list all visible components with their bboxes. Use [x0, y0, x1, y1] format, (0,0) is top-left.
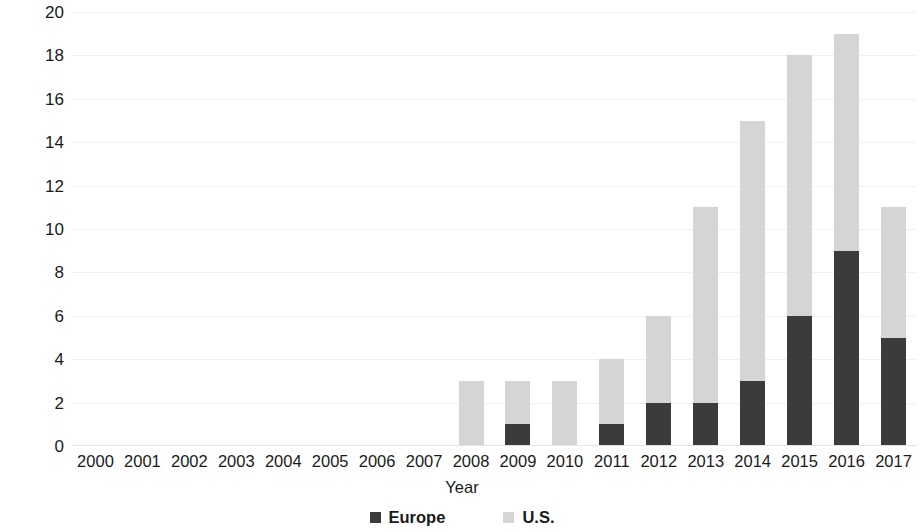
x-axis-line — [72, 445, 917, 446]
x-axis-tick-label: 2002 — [166, 450, 213, 472]
x-axis-tick-label: 2011 — [588, 450, 635, 472]
bar-group[interactable] — [599, 359, 624, 446]
x-axis-tick-label: 2006 — [354, 450, 401, 472]
x-axis-tick-label: 2008 — [448, 450, 495, 472]
bar-segment-us[interactable] — [552, 381, 577, 446]
x-axis-tick-label: 2003 — [213, 450, 260, 472]
x-axis-tick-label: 2015 — [776, 450, 823, 472]
bar-segment-us[interactable] — [740, 121, 765, 381]
gridline — [72, 12, 917, 13]
bar-group[interactable] — [881, 207, 906, 446]
y-axis-tick-labels: 20181614121086420 — [16, 0, 64, 460]
x-axis-title: Year — [0, 476, 924, 498]
x-axis-tick-label: 2005 — [307, 450, 354, 472]
bar-segment-us[interactable] — [881, 207, 906, 337]
x-axis-tick-label: 2001 — [119, 450, 166, 472]
bar-group[interactable] — [646, 316, 671, 446]
y-axis-tick-label: 14 — [16, 134, 64, 151]
plot-area — [72, 12, 917, 446]
bar-segment-europe[interactable] — [740, 381, 765, 446]
y-axis-tick-label: 4 — [16, 351, 64, 368]
y-axis-tick-label: 0 — [16, 438, 64, 455]
x-axis-tick-labels: 2000200120022003200420052006200720082009… — [72, 450, 917, 474]
bar-segment-us[interactable] — [599, 359, 624, 424]
bar-segment-us[interactable] — [646, 316, 671, 403]
x-axis-tick-label: 2009 — [495, 450, 542, 472]
x-axis-tick-label: 2000 — [72, 450, 119, 472]
bar-group[interactable] — [740, 121, 765, 447]
x-axis-tick-label: 2010 — [541, 450, 588, 472]
stacked-bar-chart: Number of financing rounds 2018161412108… — [0, 0, 924, 532]
bar-segment-europe[interactable] — [599, 424, 624, 446]
bar-group[interactable] — [787, 55, 812, 446]
x-axis-tick-label: 2016 — [823, 450, 870, 472]
bar-segment-us[interactable] — [834, 34, 859, 251]
bar-segment-us[interactable] — [459, 381, 484, 446]
x-axis-tick-label: 2017 — [870, 450, 917, 472]
bar-segment-europe[interactable] — [787, 316, 812, 446]
legend-entry[interactable]: U.S. — [503, 508, 554, 526]
bar-segment-us[interactable] — [787, 55, 812, 315]
bar-segment-us[interactable] — [693, 207, 718, 402]
bar-segment-europe[interactable] — [646, 403, 671, 446]
y-axis-tick-label: 18 — [16, 47, 64, 64]
chart-legend: EuropeU.S. — [0, 508, 924, 526]
y-axis-tick-label: 8 — [16, 264, 64, 281]
bar-segment-europe[interactable] — [834, 251, 859, 446]
x-axis-tick-label: 2004 — [260, 450, 307, 472]
x-axis-tick-label: 2012 — [635, 450, 682, 472]
bar-group[interactable] — [693, 207, 718, 446]
y-axis-tick-label: 10 — [16, 221, 64, 238]
legend-swatch-icon — [503, 512, 514, 523]
bar-group[interactable] — [552, 381, 577, 446]
y-axis-tick-label: 20 — [16, 4, 64, 21]
legend-label: Europe — [389, 508, 446, 526]
y-axis-tick-label: 6 — [16, 308, 64, 325]
bar-segment-europe[interactable] — [693, 403, 718, 446]
x-axis-tick-label: 2007 — [401, 450, 448, 472]
y-axis-tick-label: 16 — [16, 91, 64, 108]
legend-entry[interactable]: Europe — [370, 508, 446, 526]
x-axis-tick-label: 2014 — [729, 450, 776, 472]
x-axis-tick-label: 2013 — [682, 450, 729, 472]
y-axis-tick-label: 2 — [16, 395, 64, 412]
bar-segment-us[interactable] — [505, 381, 530, 424]
bar-group[interactable] — [505, 381, 530, 446]
bar-group[interactable] — [834, 34, 859, 446]
bar-group[interactable] — [459, 381, 484, 446]
bar-segment-europe[interactable] — [881, 338, 906, 447]
y-axis-tick-label: 12 — [16, 178, 64, 195]
legend-label: U.S. — [522, 508, 554, 526]
legend-swatch-icon — [370, 512, 381, 523]
bar-segment-europe[interactable] — [505, 424, 530, 446]
